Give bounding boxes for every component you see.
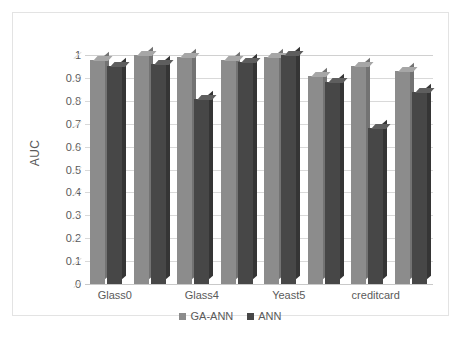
- bar-ann[interactable]: [325, 82, 340, 284]
- bar-ann[interactable]: [412, 92, 427, 284]
- bar-top-face: [328, 78, 348, 83]
- bar-top-face: [110, 62, 130, 67]
- bar-group: [259, 55, 303, 284]
- bar-top-face: [371, 124, 391, 129]
- bar-face: [325, 82, 340, 284]
- bar-ann[interactable]: [238, 62, 253, 284]
- bar-top-face: [137, 51, 157, 56]
- bar-face: [194, 99, 209, 284]
- bar-face: [308, 76, 323, 284]
- legend-item[interactable]: GA-ANN: [179, 310, 233, 322]
- x-axis-tick: Yeast5: [272, 289, 305, 301]
- x-axis-tick: creditcard: [352, 289, 400, 301]
- bar-ann[interactable]: [368, 128, 383, 284]
- y-axis-title: AUC: [28, 123, 42, 183]
- legend-label: GA-ANN: [190, 310, 233, 322]
- bar-face: [90, 60, 105, 284]
- y-axis-tick: 0.4: [66, 186, 81, 198]
- bar-top-face: [241, 58, 261, 63]
- bar-top-face: [311, 72, 331, 77]
- bar-group: [216, 55, 260, 284]
- bar-face: [351, 66, 366, 284]
- bar-ga-ann[interactable]: [308, 76, 323, 284]
- bar-top-face: [154, 60, 174, 65]
- bar-ga-ann[interactable]: [90, 60, 105, 284]
- bar-ga-ann[interactable]: [351, 66, 366, 284]
- chart-frame: 10.90.80.70.60.50.40.30.20.10 AUC Glass0…: [12, 12, 449, 316]
- bar-face: [238, 62, 253, 284]
- bar-face: [177, 57, 192, 284]
- bar-ga-ann[interactable]: [264, 57, 279, 284]
- bar-top-face: [415, 88, 435, 93]
- bar-ann[interactable]: [151, 64, 166, 284]
- bar-group: [85, 55, 129, 284]
- bar-face: [264, 57, 279, 284]
- bar-face: [395, 71, 410, 284]
- bar-ga-ann[interactable]: [134, 55, 149, 284]
- bar-ann[interactable]: [194, 99, 209, 284]
- bar-top-face: [354, 62, 374, 67]
- legend-label: ANN: [258, 310, 281, 322]
- bar-top-face: [93, 56, 113, 61]
- bar-ga-ann[interactable]: [221, 60, 236, 284]
- bar-face: [368, 128, 383, 284]
- bar-ga-ann[interactable]: [395, 71, 410, 284]
- gridline: [85, 284, 433, 285]
- bar-group: [303, 55, 347, 284]
- bar-face: [107, 66, 122, 284]
- y-axis-tick: 0.3: [66, 209, 81, 221]
- bar-ann[interactable]: [281, 55, 296, 284]
- legend-swatch-icon: [179, 313, 186, 320]
- bar-face: [412, 92, 427, 284]
- bar-group: [129, 55, 173, 284]
- bar-top-face: [224, 56, 244, 61]
- bar-face: [221, 60, 236, 284]
- bar-face: [134, 55, 149, 284]
- x-axis-tick: Glass0: [98, 289, 132, 301]
- bar-top-face: [180, 53, 200, 58]
- y-axis-tick-labels: 10.90.80.70.60.50.40.30.20.10: [41, 46, 81, 294]
- bar-face: [151, 64, 166, 284]
- bar-top-face: [398, 67, 418, 72]
- bar-group: [346, 55, 390, 284]
- plot-area: [85, 55, 433, 284]
- bar-ga-ann[interactable]: [177, 57, 192, 284]
- bar-group: [390, 55, 434, 284]
- bar-ann[interactable]: [107, 66, 122, 284]
- legend-item[interactable]: ANN: [247, 310, 281, 322]
- bar-top-face: [197, 95, 217, 100]
- bar-group: [172, 55, 216, 284]
- x-axis-tick: Glass4: [185, 289, 219, 301]
- bar-top-face: [284, 51, 304, 56]
- chart-legend: GA-ANNANN: [13, 310, 448, 322]
- bar-face: [281, 55, 296, 284]
- legend-swatch-icon: [247, 313, 254, 320]
- x-axis-tick-labels: Glass0Glass4Yeast5creditcard: [85, 289, 433, 307]
